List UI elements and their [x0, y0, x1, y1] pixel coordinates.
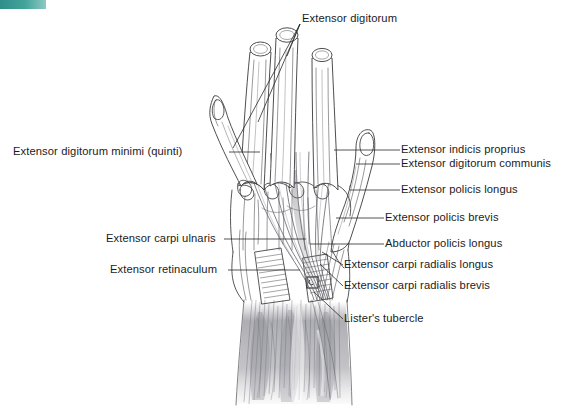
corner-color-mark: [0, 0, 46, 9]
hand-extensor-tendon-drawing: [0, 0, 579, 412]
digit-4-ring: [312, 48, 338, 190]
label-extensor-indicis-proprius: Extensor indicis proprius: [401, 143, 525, 156]
ulnar-tendon-group: [239, 230, 251, 300]
label-extensor-policis-brevis: Extensor policis brevis: [385, 211, 499, 224]
label-extensor-digitorum-communis: Extensor digitorum communis: [401, 157, 551, 170]
label-extensor-policis-longus: Extensor policis longus: [401, 183, 518, 196]
label-extensor-retinaculum: Extensor retinaculum: [110, 263, 217, 276]
anatomical-figure: Extensor digitorum Extensor digitorum mi…: [0, 0, 579, 412]
label-extensor-carpi-radialis-brevis: Extensor carpi radialis brevis: [344, 279, 490, 292]
label-extensor-carpi-ulnaris: Extensor carpi ulnaris: [106, 232, 216, 245]
label-listers-tubercle: Lister's tubercle: [344, 312, 424, 325]
label-abductor-policis-longus: Abductor policis longus: [385, 237, 502, 250]
label-extensor-digitorum-minimi: Extensor digitorum minimi (quinti): [13, 145, 182, 158]
digit-1-thumb: [331, 130, 375, 268]
label-extensor-digitorum: Extensor digitorum: [302, 12, 397, 25]
digit-3-middle: [270, 28, 298, 188]
extensor-retinaculum-band: [255, 248, 333, 304]
label-extensor-carpi-radialis-longus: Extensor carpi radialis longus: [344, 258, 493, 271]
forearm-muscle-bellies: [236, 300, 352, 408]
